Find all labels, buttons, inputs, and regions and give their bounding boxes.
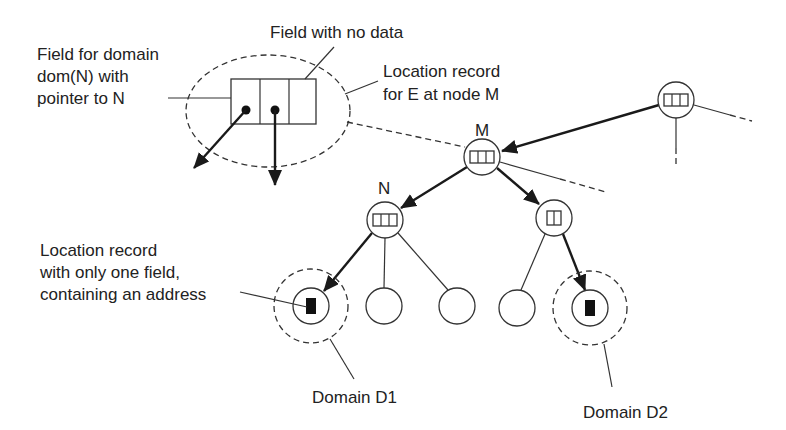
node-root[interactable] xyxy=(658,82,694,118)
callout-connector xyxy=(347,122,465,147)
label-field-no-data: Field with no data xyxy=(270,23,404,42)
address-field-icon xyxy=(306,298,316,314)
node-N[interactable]: N xyxy=(367,179,403,238)
tree-edges xyxy=(324,105,752,291)
label-domain-d1: Domain D1 xyxy=(312,388,397,407)
record-icon-3-fields xyxy=(373,214,397,226)
label-location-record-M: Location record for E at node M xyxy=(383,62,505,104)
edge-M-to-N xyxy=(401,167,467,208)
label-domain-d2: Domain D2 xyxy=(583,403,668,422)
node-leaf3[interactable] xyxy=(439,288,475,324)
edge-M-to-R xyxy=(497,168,539,204)
node-M[interactable]: M xyxy=(464,121,500,175)
node-leaf1[interactable] xyxy=(293,288,329,324)
leader-domain-d2 xyxy=(604,344,612,387)
node-leaf5[interactable] xyxy=(572,290,608,326)
label-field-for-domain: Field for domain dom(N) with pointer to … xyxy=(37,45,164,108)
edge-root-to-M xyxy=(502,105,659,151)
leader-domain-d1 xyxy=(330,339,354,379)
node-R[interactable] xyxy=(536,200,572,236)
location-record-tree-diagram: Field for domain dom(N) with pointer to … xyxy=(0,0,786,430)
node-label-M: M xyxy=(475,121,489,140)
pointer-arrow-1 xyxy=(194,110,246,168)
leader-location-record-M xyxy=(345,81,378,94)
edge-R-to-leaf5 xyxy=(563,234,585,290)
record-icon-3-fields xyxy=(664,94,688,106)
node-label-N: N xyxy=(378,179,390,198)
address-field-icon xyxy=(585,300,595,316)
label-location-record-one-field: Location record with only one field, con… xyxy=(39,241,206,304)
record-icon-3-fields xyxy=(470,151,494,163)
node-leaf2[interactable] xyxy=(366,288,402,324)
edge-N-to-leaf1 xyxy=(324,233,372,291)
enlarged-location-record xyxy=(194,79,316,185)
node-leaf4[interactable] xyxy=(499,290,535,326)
